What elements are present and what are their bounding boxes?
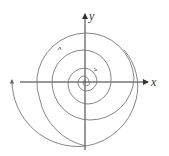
spiral-diagram [0,0,169,156]
direction-arrow-icon [94,68,97,71]
direction-arrow-icon [58,47,61,50]
x-axis-label: x [151,75,156,90]
y-axis-label: y [89,9,94,24]
spiral-outer-tail [12,80,86,146]
spiral-trajectory [37,33,138,146]
